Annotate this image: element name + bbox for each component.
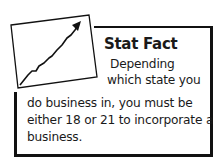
box-border-bottom xyxy=(14,154,213,157)
box-border-top xyxy=(94,26,212,28)
body-line-3: do business in, you must be xyxy=(27,96,193,111)
box-border-left xyxy=(14,92,17,157)
body-line-4: either 18 or 21 to incorporate a xyxy=(27,113,213,128)
body-line-2: which state you xyxy=(107,73,201,88)
box-border-right xyxy=(210,26,213,157)
body-line-5: business. xyxy=(27,130,82,145)
body-line-1: Depending xyxy=(110,57,175,72)
trending-up-chart-icon xyxy=(0,0,110,100)
box-title: Stat Fact xyxy=(104,35,177,53)
